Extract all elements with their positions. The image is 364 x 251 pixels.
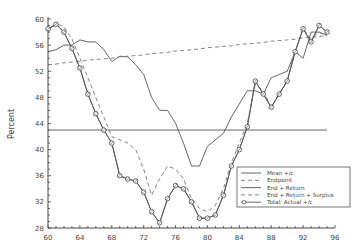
y-tick-label: 36 xyxy=(35,172,44,180)
legend-label: End + Return xyxy=(267,185,305,191)
y-tick-label: 28 xyxy=(35,225,44,233)
y-tick-label: 48 xyxy=(35,94,44,102)
x-tick-label: 96 xyxy=(331,234,340,242)
legend-label: Endpoint xyxy=(267,177,293,184)
y-axis-label: Percent xyxy=(7,109,16,139)
x-tick-label: 80 xyxy=(203,234,212,242)
chart-svg: 60646872768084889296283236404448525660 M… xyxy=(0,0,364,251)
x-tick-label: 84 xyxy=(235,234,244,242)
x-tick-label: 72 xyxy=(139,234,148,242)
x-tick-label: 88 xyxy=(267,234,276,242)
x-tick-label: 92 xyxy=(299,234,308,242)
y-tick-label: 52 xyxy=(35,68,44,76)
x-tick-label: 68 xyxy=(107,234,116,242)
y-tick-label: 44 xyxy=(35,120,44,128)
y-tick-label: 40 xyxy=(35,146,44,154)
legend-label: Total: Actual +/c xyxy=(266,199,313,205)
y-tick-label: 60 xyxy=(35,16,44,24)
series-line-1 xyxy=(48,35,327,64)
legend: Mean +/cEndpointEnd + ReturnEnd + Return… xyxy=(237,167,350,207)
legend-label: End + Return + Surplus xyxy=(267,192,334,199)
legend-label: Mean +/c xyxy=(267,170,294,176)
line-chart: 60646872768084889296283236404448525660 M… xyxy=(0,0,364,251)
x-tick-label: 76 xyxy=(171,234,180,242)
y-tick-label: 32 xyxy=(35,198,44,206)
x-tick-label: 64 xyxy=(75,234,84,242)
x-tick-label: 60 xyxy=(44,234,53,242)
y-tick-label: 56 xyxy=(35,42,44,50)
